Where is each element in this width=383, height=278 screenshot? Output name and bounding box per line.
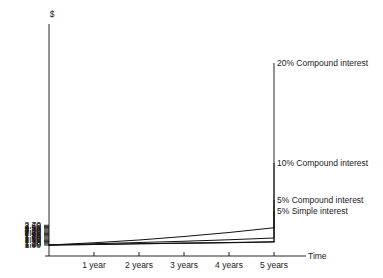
x-tick-label: 4 years [215, 260, 243, 270]
series-label-4: 5% Simple interest [277, 206, 349, 216]
y-axis-ticks [44, 225, 49, 245]
y-tick-label: 1.00 [24, 240, 41, 250]
x-tick-label: 1 year [82, 260, 106, 270]
series-label-2: 10% Compound interest [277, 158, 369, 168]
x-axis-tick-labels: 1 year2 years3 years4 years5 years [82, 260, 288, 270]
x-axis-title: Time [308, 251, 327, 261]
y-axis-tick-labels: 2.702.602.502.402.302.202.102.001.901.80… [24, 220, 41, 250]
x-tick-label: 2 years [125, 260, 153, 270]
x-tick-label: 3 years [170, 260, 198, 270]
interest-growth-chart: 2.702.602.502.402.302.202.102.001.901.80… [0, 0, 383, 278]
x-tick-label: 5 years [260, 260, 288, 270]
series-label-1: 20% Compound interest [277, 58, 369, 68]
series-labels-group: 20% Compound interest10% Compound intere… [277, 58, 369, 216]
x-axis-ticks [94, 252, 274, 256]
series-label-3: 5% Compound interest [277, 195, 364, 205]
data-series-group [49, 228, 274, 245]
chart-plot-area: 2.702.602.502.402.302.202.102.001.901.80… [0, 0, 383, 278]
y-axis-title: $ [50, 9, 55, 19]
